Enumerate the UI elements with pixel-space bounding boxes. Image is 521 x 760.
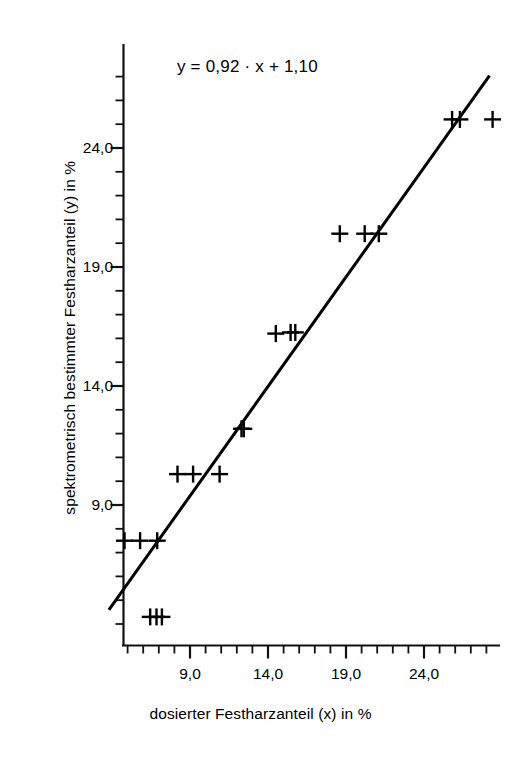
x-tick-label: 24,0: [409, 665, 439, 683]
y-tick-label: 24,0: [55, 139, 113, 157]
data-point-marker: [185, 466, 202, 483]
x-axis-ticks: [128, 646, 487, 659]
data-point-marker: [235, 420, 252, 437]
x-tick-label: 9,0: [179, 665, 201, 683]
data-point-marker: [116, 532, 133, 549]
x-tick-label: 19,0: [331, 665, 361, 683]
regression-equation-label: y = 0,92 · x + 1,10: [177, 58, 318, 75]
x-tick-label: 14,0: [253, 665, 283, 683]
x-axis-title: dosierter Festharzanteil (x) in %: [149, 706, 371, 722]
y-tick-label: 19,0: [55, 258, 113, 276]
data-point-marker: [331, 225, 348, 242]
y-tick-label: 9,0: [55, 496, 113, 514]
data-point-marker: [484, 111, 501, 128]
data-point-marker: [169, 466, 186, 483]
data-point-marker: [211, 466, 228, 483]
y-tick-label: 14,0: [55, 377, 113, 395]
axis-spines: [122, 44, 500, 646]
scatter-plot-figure: y = 0,92 · x + 1,10 dosierter Festharzan…: [0, 0, 521, 760]
data-point-marker: [267, 325, 284, 342]
regression-line: [109, 76, 490, 610]
y-axis-title: spektrometrisch bestimmter Festharzantei…: [62, 138, 78, 538]
data-points: [116, 111, 501, 626]
data-point-marker: [132, 532, 149, 549]
